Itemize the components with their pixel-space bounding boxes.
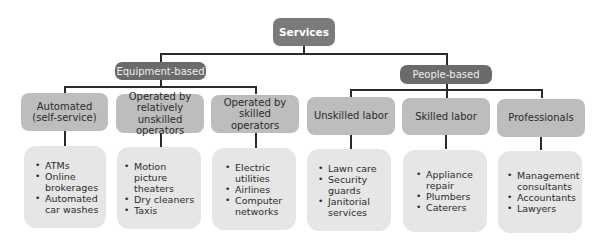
list-item: Security guards xyxy=(328,174,391,196)
list-item: Accountants xyxy=(517,192,582,203)
examples-automated: ATMs Online brokerages Automated car was… xyxy=(24,146,106,228)
list-item: Lawyers xyxy=(517,203,582,214)
list-item: Taxis xyxy=(134,205,201,216)
connector xyxy=(350,89,542,91)
examples-skilled-operators: Electric utilities Airlines Computer net… xyxy=(212,148,296,230)
examples-unskilled-labor: Lawn care Security guards Janitorial ser… xyxy=(307,149,391,231)
node-label: Equipment-based xyxy=(116,66,204,77)
node-label: Skilled labor xyxy=(415,111,477,123)
list-item: Lawn care xyxy=(328,163,391,174)
examples-relatively-unskilled: Motion picture theaters Dry cleaners Tax… xyxy=(117,147,201,229)
connector xyxy=(160,53,162,62)
list-item: Management consultants xyxy=(517,170,582,192)
list-item: Motion picture theaters xyxy=(134,161,201,194)
connector xyxy=(445,135,447,149)
connector xyxy=(446,53,448,65)
connector xyxy=(350,135,352,149)
examples-skilled-labor: Appliance repair Plumbers Caterers xyxy=(403,150,487,232)
node-label: Operated by skilled operators xyxy=(214,97,296,132)
list-item: Computer networks xyxy=(235,195,296,217)
connector xyxy=(541,89,543,98)
list-item: Electric utilities xyxy=(235,162,296,184)
list-item: Automated car washes xyxy=(45,193,106,215)
node-unskilled-labor: Unskilled labor xyxy=(307,97,395,135)
node-professionals: Professionals xyxy=(497,99,585,137)
connector xyxy=(255,133,257,148)
examples-professionals: Management consultants Accountants Lawye… xyxy=(498,151,582,233)
node-label: People-based xyxy=(412,69,479,80)
connector xyxy=(64,131,66,146)
node-label: Automated (self-service) xyxy=(24,101,105,124)
list-item: Airlines xyxy=(235,184,296,195)
node-label: Operated by relatively unskilled operato… xyxy=(119,91,201,137)
list-item: Plumbers xyxy=(426,191,487,202)
node-automated: Automated (self-service) xyxy=(21,93,108,131)
node-skilled-labor: Skilled labor xyxy=(402,98,490,135)
connector xyxy=(540,137,542,150)
list-item: Appliance repair xyxy=(426,169,487,191)
node-services: Services xyxy=(273,18,335,46)
node-label: Professionals xyxy=(508,112,573,124)
node-skilled-operators: Operated by skilled operators xyxy=(211,95,299,133)
list-item: Caterers xyxy=(426,202,487,213)
connector xyxy=(160,53,447,55)
list-item: Janitorial services xyxy=(328,196,391,218)
list-item: ATMs xyxy=(45,160,106,171)
node-equipment-based: Equipment-based xyxy=(115,62,206,80)
connector xyxy=(350,89,352,97)
connector xyxy=(255,86,257,94)
node-label: Services xyxy=(279,26,329,38)
connector xyxy=(64,86,256,88)
node-people-based: People-based xyxy=(400,65,492,84)
node-label: Unskilled labor xyxy=(314,110,388,122)
node-relatively-unskilled-operators: Operated by relatively unskilled operato… xyxy=(116,94,204,133)
list-item: Online brokerages xyxy=(45,171,106,193)
connector xyxy=(446,84,448,99)
list-item: Dry cleaners xyxy=(134,194,201,205)
